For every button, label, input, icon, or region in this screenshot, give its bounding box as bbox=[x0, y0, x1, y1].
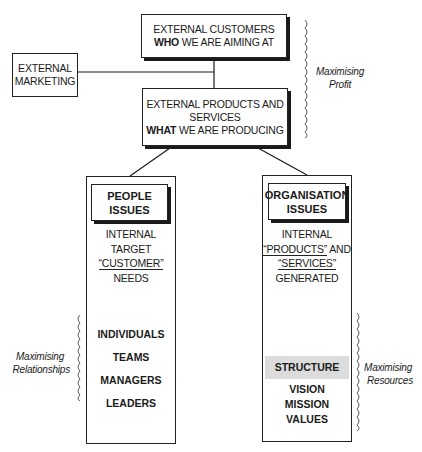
people-description: INTERNAL TARGET “CUSTOMER” NEEDS bbox=[87, 227, 175, 285]
maximising-relationships-label: Maximising Relationships bbox=[2, 350, 70, 376]
org-desc-internal: INTERNAL bbox=[263, 227, 351, 242]
organisation-issues-header: ORGANISATION ISSUES bbox=[268, 183, 346, 220]
org-desc-services: “SERVICES” bbox=[278, 257, 336, 270]
external-customers-label: EXTERNAL CUSTOMERS bbox=[153, 23, 274, 36]
list-item-individuals: INDIVIDUALS bbox=[87, 323, 175, 346]
structure-highlight: STRUCTURE bbox=[265, 356, 350, 379]
products-line2: SERVICES bbox=[189, 111, 240, 124]
products-line1: EXTERNAL PRODUCTS AND bbox=[146, 98, 283, 111]
org-desc-services-line: “SERVICES” bbox=[263, 256, 351, 271]
people-desc-target: TARGET bbox=[87, 242, 175, 257]
relationships-brace bbox=[78, 315, 80, 401]
org-description: INTERNAL “PRODUCTS” AND “SERVICES” GENER… bbox=[263, 227, 351, 285]
org-header-line1: ORGANISATION bbox=[265, 188, 350, 202]
org-header-line2: ISSUES bbox=[287, 202, 327, 216]
external-customers-box: EXTERNAL CUSTOMERS WHO WE ARE AIMING AT bbox=[141, 14, 287, 58]
people-header-line1: PEOPLE bbox=[107, 189, 152, 203]
org-list: STRUCTURE bbox=[263, 356, 351, 379]
profit-line1: Maximising bbox=[312, 65, 368, 78]
resources-line2: Resources bbox=[364, 374, 422, 387]
relationships-line2: Relationships bbox=[2, 363, 70, 376]
list-item-values: VALUES bbox=[263, 412, 351, 427]
what-line: WHAT WE ARE PRODUCING bbox=[146, 124, 283, 137]
resources-brace bbox=[357, 313, 359, 431]
org-desc-generated: GENERATED bbox=[263, 271, 351, 286]
org-desc-products-line: “PRODUCTS” AND bbox=[263, 242, 351, 257]
resources-line1: Maximising bbox=[364, 361, 422, 374]
list-item-teams: TEAMS bbox=[87, 346, 175, 369]
maximising-profit-label: Maximising Profit bbox=[312, 65, 368, 91]
people-header-line2: ISSUES bbox=[109, 203, 149, 217]
people-desc-customer: “CUSTOMER” bbox=[99, 257, 164, 270]
profit-line2: Profit bbox=[312, 78, 368, 91]
profit-brace bbox=[305, 20, 307, 138]
marketing-line1: EXTERNAL bbox=[18, 62, 72, 75]
maximising-resources-label: Maximising Resources bbox=[364, 361, 422, 387]
marketing-line2: MARKETING bbox=[15, 75, 76, 88]
who-label: WHO bbox=[154, 36, 179, 48]
list-item-managers: MANAGERS bbox=[87, 369, 175, 392]
structure-row: STRUCTURE bbox=[263, 356, 351, 379]
list-item-mission: MISSION bbox=[263, 397, 351, 412]
list-item-vision: VISION bbox=[263, 382, 351, 397]
people-list: INDIVIDUALS TEAMS MANAGERS LEADERS bbox=[87, 323, 175, 415]
who-line: WHO WE ARE AIMING AT bbox=[154, 36, 274, 49]
people-issues-column: PEOPLE ISSUES INTERNAL TARGET “CUSTOMER”… bbox=[86, 176, 176, 444]
external-products-box: EXTERNAL PRODUCTS AND SERVICES WHAT WE A… bbox=[142, 88, 288, 146]
external-marketing-box: EXTERNAL MARKETING bbox=[12, 53, 78, 97]
organisation-issues-column: ORGANISATION ISSUES INTERNAL “PRODUCTS” … bbox=[262, 175, 352, 442]
org-desc-and: AND bbox=[327, 243, 351, 255]
org-values-list: VISION MISSION VALUES bbox=[263, 382, 351, 427]
people-desc-needs: NEEDS bbox=[87, 271, 175, 286]
what-rest: WE ARE PRODUCING bbox=[176, 124, 283, 136]
org-desc-products: “PRODUCTS” bbox=[263, 243, 327, 256]
list-item-leaders: LEADERS bbox=[87, 392, 175, 415]
what-label: WHAT bbox=[146, 124, 176, 136]
who-rest: WE ARE AIMING AT bbox=[179, 36, 274, 48]
relationships-line1: Maximising bbox=[2, 350, 70, 363]
people-desc-customer-wrap: “CUSTOMER” bbox=[87, 256, 175, 271]
people-issues-header: PEOPLE ISSUES bbox=[91, 184, 168, 221]
people-desc-internal: INTERNAL bbox=[87, 227, 175, 242]
